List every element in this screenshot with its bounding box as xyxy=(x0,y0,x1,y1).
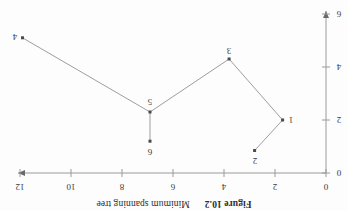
x-tick-label: 8 xyxy=(119,182,124,192)
x-tick-label: 10 xyxy=(66,182,76,192)
rotated-scan-container: Figure 10.2 Minimum spanning tree xyxy=(0,0,348,211)
x-tick-label: 0 xyxy=(323,182,328,192)
figure-page: Figure 10.2 Minimum spanning tree xyxy=(0,0,348,211)
x-tick-label: 6 xyxy=(170,182,175,192)
x-tick-label: 12 xyxy=(16,182,25,192)
minimum-spanning-tree-plot: 0 2 4 6 8 10 12 0 2 xyxy=(0,0,348,211)
node-point-1 xyxy=(281,119,284,122)
y-tick-label: 4 xyxy=(336,62,341,72)
tree-edges xyxy=(23,38,283,151)
y-axis-tick-labels: 0 2 4 6 xyxy=(336,9,341,178)
y-tick-label: 0 xyxy=(336,168,341,178)
node-label-1: 1 xyxy=(289,115,294,125)
node-labels: 1 2 3 4 5 6 xyxy=(12,32,293,166)
node-label-5: 5 xyxy=(147,97,152,107)
node-point-6 xyxy=(149,140,152,143)
node-point-2 xyxy=(253,149,256,152)
node-label-6: 6 xyxy=(147,147,152,157)
tree-nodes xyxy=(21,36,284,152)
node-point-4 xyxy=(21,36,24,39)
node-label-3: 3 xyxy=(226,46,231,56)
edge-2-1 xyxy=(255,120,283,151)
node-point-3 xyxy=(228,58,231,61)
edge-3-5 xyxy=(150,59,229,112)
x-tick-label: 2 xyxy=(273,182,278,192)
x-axis xyxy=(18,170,326,176)
node-point-5 xyxy=(149,111,152,114)
y-tick-label: 2 xyxy=(337,115,342,125)
node-label-2: 2 xyxy=(253,156,258,166)
y-axis xyxy=(323,11,329,173)
y-tick-label: 6 xyxy=(336,9,341,19)
edge-1-3 xyxy=(229,59,283,120)
x-tick-label: 4 xyxy=(221,182,226,192)
node-label-4: 4 xyxy=(12,32,17,42)
edge-5-4 xyxy=(23,38,151,112)
x-axis-tick-labels: 0 2 4 6 8 10 12 xyxy=(16,182,329,192)
